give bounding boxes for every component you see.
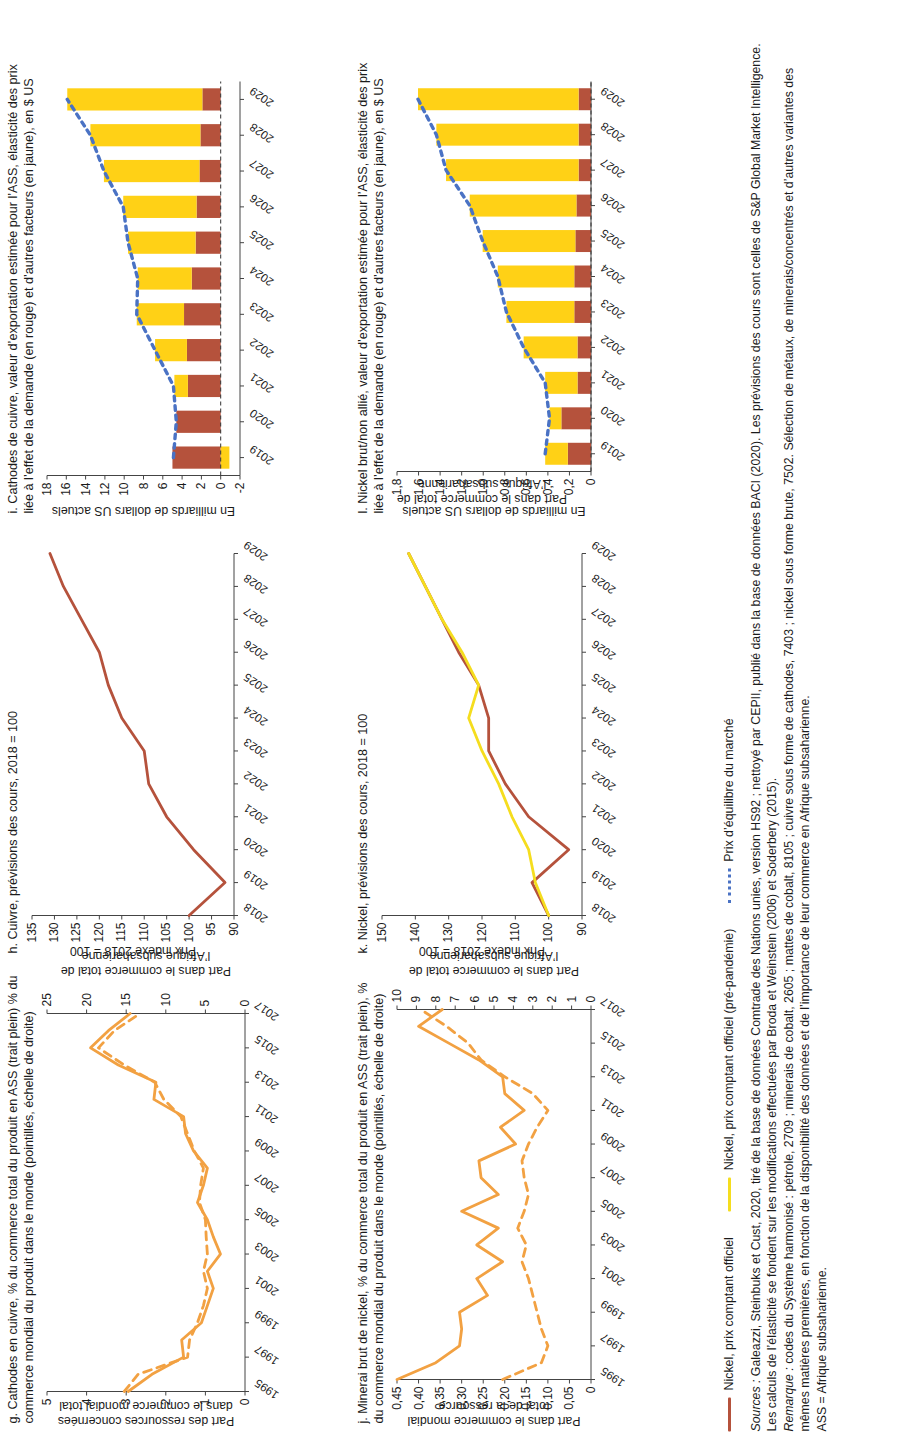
y-tick-label-right: 4	[506, 995, 520, 1002]
panel-l-title: l. Nickel brut/non allié, valeur d’expor…	[356, 57, 387, 513]
remark-text: codes du Système harmonisé : pétrole, 27…	[782, 67, 812, 1431]
panel-l: l. Nickel brut/non allié, valeur d’expor…	[356, 51, 706, 521]
panel-k: k. Nickel, prévisions des cours, 2018 = …	[356, 521, 706, 961]
panel-i-title: i. Cathodes de cuivre, valeur d’exportat…	[6, 57, 37, 513]
x-tick-label: 2018	[241, 900, 284, 936]
y-axis-label-left: Prix indexé 2018 = 100	[382, 942, 582, 957]
x-tick-label: 2029	[247, 84, 290, 120]
series-line	[98, 1013, 207, 1391]
y-tick-label-right: 5	[487, 995, 501, 1002]
y-tick-label-right: 2	[545, 995, 559, 1002]
series-line	[91, 1013, 221, 1391]
x-tick-label: 2025	[598, 226, 641, 262]
remark-line: Remarque : codes du Système harmonisé : …	[781, 31, 814, 1431]
x-tick-label: 2022	[241, 769, 284, 805]
x-tick-label: 2017	[598, 994, 641, 1030]
x-tick-label: 2027	[598, 155, 641, 191]
y-tick-label-right: 10	[159, 993, 173, 1006]
x-tick-label: 2026	[241, 637, 284, 673]
y-tick-label-right: 1	[565, 995, 579, 1002]
x-tick-label: 2021	[589, 802, 632, 838]
series-line	[408, 553, 548, 915]
x-tick-label: 2020	[241, 835, 284, 871]
box-l-svg	[391, 69, 597, 515]
box-j-svg	[391, 979, 597, 1425]
box-k-svg	[376, 539, 588, 955]
x-tick-label: 2001	[252, 1273, 295, 1309]
x-tick-label: 2015	[252, 1033, 295, 1069]
x-tick-label: 2005	[252, 1205, 295, 1241]
legend-swatch-dotted	[728, 868, 731, 902]
x-tick-label: 2003	[598, 1230, 641, 1266]
x-tick-label: 2007	[252, 1170, 295, 1206]
x-tick-label: 1997	[598, 1331, 641, 1367]
y-tick-label-right: 15	[119, 993, 133, 1006]
x-tick-label: 2029	[241, 538, 284, 574]
x-tick-label: 2019	[247, 442, 290, 478]
y-axis-label-left: Part dans le commerce mondial total de l…	[397, 1397, 591, 1427]
x-tick-label: 2005	[598, 1196, 641, 1232]
y-tick-label-right: 9	[409, 995, 423, 1002]
x-tick-label: 2011	[252, 1101, 295, 1137]
panel-l-plot: 00,20,40,60,81,01,21,41,61,8201920202021…	[391, 69, 657, 515]
x-tick-label: 2029	[598, 84, 641, 120]
x-tick-label: 2024	[241, 703, 284, 739]
x-tick-label: 2013	[598, 1062, 641, 1098]
y-tick-label-right: 5	[198, 999, 212, 1006]
y-tick-label-right: 10	[390, 989, 404, 1002]
y-tick-label-right: 7	[448, 995, 462, 1002]
legend-swatch-line	[728, 1177, 731, 1211]
panel-k-plot: 9010011012013014015020182019202020212022…	[376, 539, 646, 955]
y-tick-label-right: 0	[584, 995, 598, 1002]
box-i-svg	[41, 69, 246, 515]
y-tick-label-right: 0	[238, 999, 252, 1006]
x-tick-label: 2024	[589, 703, 632, 739]
x-tick-label: 2025	[247, 228, 290, 264]
x-tick-label: 2027	[241, 604, 284, 640]
x-tick-label: 2023	[247, 299, 290, 335]
series-line	[408, 553, 568, 915]
y-tick-label-right: 6	[468, 995, 482, 1002]
x-tick-label: 2020	[589, 835, 632, 871]
x-tick-label: 2028	[241, 571, 284, 607]
sources-line: Sources : Galeazzi, Steinbuks et Cust, 2…	[748, 31, 781, 1431]
x-tick-label: 2027	[589, 604, 632, 640]
panel-i: i. Cathodes de cuivre, valeur d’exportat…	[6, 51, 356, 521]
x-tick-label: 2021	[241, 802, 284, 838]
figure: g. Cathodes en cuivre, % du commerce tot…	[0, 0, 900, 1445]
figure-rotated-container: g. Cathodes en cuivre, % du commerce tot…	[0, 0, 900, 1445]
x-tick-label: 2026	[589, 637, 632, 673]
x-tick-label: 2025	[589, 670, 632, 706]
x-tick-label: 2027	[247, 156, 290, 192]
x-tick-label: 2001	[598, 1263, 641, 1299]
x-tick-label: 2020	[247, 407, 290, 443]
x-tick-label: 2020	[598, 403, 641, 439]
x-tick-label: 2028	[247, 120, 290, 156]
y-axis-label-left: En milliards de dollars US actuels	[397, 502, 591, 517]
box-g-svg	[41, 979, 251, 1425]
series-line	[49, 553, 224, 915]
x-tick-label: 2003	[252, 1239, 295, 1275]
panel-i-plot: -202468101214161820192020202120222023202…	[41, 69, 306, 515]
legend-item-nickel-prepandemic: Nickel, prix comptant officiel (pré-pand…	[722, 928, 736, 1210]
panel-grid: g. Cathodes en cuivre, % du commerce tot…	[6, 36, 706, 1431]
x-tick-label: 2015	[598, 1028, 641, 1064]
box-h-svg	[26, 539, 240, 955]
abbrev-line: ASS = Afrique subsaharienne.	[814, 31, 830, 1431]
panel-g-title: g. Cathodes en cuivre, % du commerce tot…	[6, 967, 37, 1423]
x-tick-label: 2026	[598, 190, 641, 226]
x-tick-label: 2019	[241, 867, 284, 903]
x-tick-label: 2019	[598, 439, 641, 475]
x-tick-label: 2007	[598, 1163, 641, 1199]
y-tick-label-right: 8	[429, 995, 443, 1002]
series-line	[397, 1009, 524, 1379]
x-tick-label: 2021	[247, 371, 290, 407]
x-tick-label: 2023	[589, 736, 632, 772]
x-tick-label: 2013	[252, 1067, 295, 1103]
legend-label: Nickel, prix comptant officiel	[722, 1237, 736, 1390]
x-tick-label: 2019	[589, 867, 632, 903]
x-tick-label: 2009	[598, 1129, 641, 1165]
legend: Nickel, prix comptant officiel Nickel, p…	[716, 36, 742, 1431]
y-axis-label-left: Prix indexé 2018 = 100	[32, 942, 234, 957]
y-tick-label-right: 3	[526, 995, 540, 1002]
